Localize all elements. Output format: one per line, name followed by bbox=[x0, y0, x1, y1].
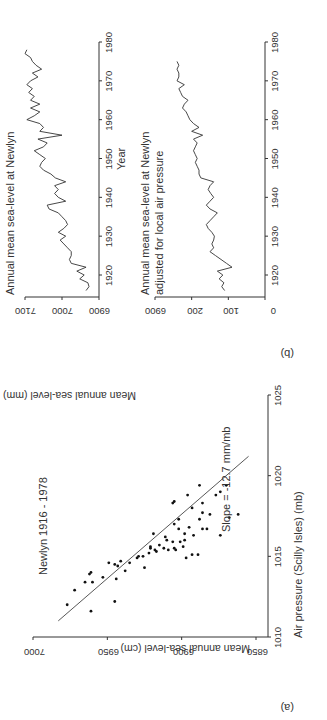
x-tick-label: 1950 bbox=[103, 148, 114, 169]
y-tick-label: 6850 bbox=[247, 647, 268, 658]
x-tick-label: 1930 bbox=[103, 226, 114, 247]
y-tick-label: 7000 bbox=[24, 647, 45, 658]
panel-b-top-xlabel: Year bbox=[115, 148, 127, 170]
x-tick-label: 1920 bbox=[269, 265, 280, 286]
x-tick-label: 1025 bbox=[272, 385, 283, 406]
panel-b-bottom-title-2: adjusted for local air pressure bbox=[153, 151, 165, 295]
y-tick-label: 6900 bbox=[173, 647, 194, 658]
y-tick-label: 7000 bbox=[52, 306, 73, 317]
x-tick-label: 1980 bbox=[269, 32, 280, 53]
x-tick-label: 1940 bbox=[103, 187, 114, 208]
y-tick-label: 0 bbox=[271, 306, 276, 317]
x-tick-label: 1930 bbox=[269, 226, 280, 247]
x-tick-label: 1010 bbox=[272, 627, 283, 648]
panel-b-tag: (b) bbox=[281, 348, 294, 360]
x-tick-label: 1920 bbox=[103, 265, 114, 286]
y-tick-label: 7100 bbox=[15, 306, 36, 317]
figure: Annual mean sea-level at Newlyn Annual m… bbox=[0, 0, 327, 720]
panel-b-top-title: Annual mean sea-level at Newlyn bbox=[4, 132, 16, 295]
x-tick-label: 1950 bbox=[269, 148, 280, 169]
panel-b-plots bbox=[0, 0, 327, 720]
x-tick-label: 1020 bbox=[272, 466, 283, 487]
panel-b-ylabel: Mean annual sea-level (mm) bbox=[3, 390, 136, 402]
x-tick-label: 1015 bbox=[272, 546, 283, 567]
y-tick-label: 6950 bbox=[98, 647, 119, 658]
x-tick-label: 1940 bbox=[269, 187, 280, 208]
y-tick-label: 100 bbox=[223, 306, 239, 317]
panel-a-title: Newlyn 1916 - 1978 bbox=[37, 477, 49, 575]
panel-b-bottom-title-1: Annual mean sea-level at Newlyn bbox=[139, 132, 151, 295]
x-tick-label: 1960 bbox=[269, 110, 280, 131]
x-tick-label: 1960 bbox=[103, 110, 114, 131]
panel-a-tag: (a) bbox=[281, 702, 294, 714]
x-tick-label: 1980 bbox=[103, 32, 114, 53]
panel-a-annotation: Slope = -12.7 mm/mb bbox=[220, 427, 232, 532]
y-tick-label: 200 bbox=[187, 306, 203, 317]
y-tick-label: 6900 bbox=[89, 306, 110, 317]
panel-a-xlabel: Air pressure (Scilly Isles) (mb) bbox=[292, 491, 304, 638]
x-tick-label: 1970 bbox=[103, 71, 114, 92]
x-tick-label: 1970 bbox=[269, 71, 280, 92]
y-tick-label: 6900 bbox=[145, 306, 166, 317]
